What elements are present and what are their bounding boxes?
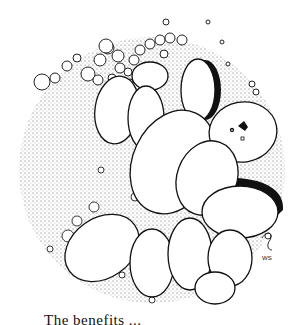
microscope-field-drawing [0, 0, 298, 325]
illustration: WS The benefits ... [0, 0, 298, 325]
caption: The benefits ... [44, 312, 284, 325]
artist-signature: WS [262, 255, 272, 261]
